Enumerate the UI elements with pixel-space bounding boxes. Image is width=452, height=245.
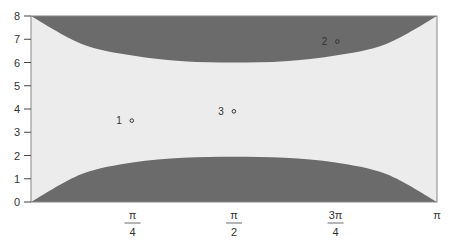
svg-text:π: π — [230, 209, 238, 221]
plot-area — [31, 16, 437, 202]
svg-text:3π: 3π — [329, 209, 343, 221]
y-axis: 012345678 — [14, 10, 31, 208]
y-tick-label: 2 — [14, 150, 20, 162]
y-tick-label: 5 — [14, 80, 20, 92]
svg-text:4: 4 — [332, 226, 338, 238]
svg-text:π: π — [433, 209, 441, 221]
y-tick-label: 7 — [14, 33, 20, 45]
y-tick-label: 4 — [14, 103, 20, 115]
chart: 012345678 π4π23π4π 123 — [0, 0, 452, 245]
svg-text:2: 2 — [231, 226, 237, 238]
x-tick-label: π4 — [125, 209, 141, 238]
y-tick-label: 6 — [14, 57, 20, 69]
svg-text:π: π — [129, 209, 137, 221]
svg-text:4: 4 — [129, 226, 135, 238]
x-axis: π4π23π4π — [125, 209, 442, 238]
y-tick-label: 3 — [14, 126, 20, 138]
y-tick-label: 0 — [14, 196, 20, 208]
x-tick-label: π — [433, 209, 441, 221]
svg-text:3: 3 — [218, 106, 224, 117]
svg-text:1: 1 — [116, 115, 122, 126]
x-tick-label: π2 — [226, 209, 242, 238]
x-tick-label: 3π4 — [328, 209, 344, 238]
y-tick-label: 8 — [14, 10, 20, 22]
svg-text:2: 2 — [322, 36, 328, 47]
y-tick-label: 1 — [14, 173, 20, 185]
